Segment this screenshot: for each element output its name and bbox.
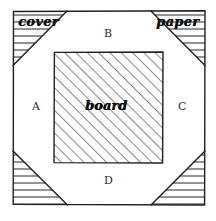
flap-a-label: A — [32, 100, 40, 113]
flap-c-label: C — [178, 100, 186, 113]
paper-label: paper — [156, 14, 199, 29]
flap-d-label: D — [104, 174, 113, 187]
flap-b-label: B — [104, 27, 112, 40]
board-label: board — [85, 98, 127, 113]
cover-paper-board-diagram: cover paper board A B C D — [0, 0, 216, 221]
cover-label: cover — [18, 14, 59, 29]
